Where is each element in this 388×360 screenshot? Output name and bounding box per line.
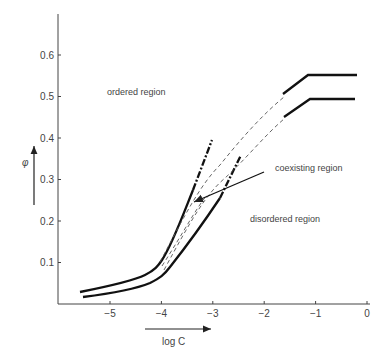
x-tick-label: 0 (364, 308, 370, 319)
phase-diagram-chart: 0.10.20.30.40.50.6 −5−4−3−2−10 φ log C o… (0, 0, 388, 360)
ordered-region-label: ordered region (107, 87, 166, 97)
y-tick-label: 0.6 (40, 50, 54, 61)
x-tick-label: −5 (104, 308, 116, 319)
coexisting-pointer-arrow-icon (194, 172, 264, 202)
y-axis-label: φ (22, 157, 29, 168)
curves (80, 75, 357, 297)
x-axis-label: log C (162, 336, 185, 347)
y-tick-label: 0.2 (40, 216, 54, 227)
y-tick-label: 0.5 (40, 91, 54, 102)
disordered-region-label: disordered region (250, 214, 320, 224)
x-tick-label: −1 (310, 308, 322, 319)
y-tick-label: 0.4 (40, 133, 54, 144)
x-tick-label: −4 (156, 308, 168, 319)
y-tick-label: 0.1 (40, 257, 54, 268)
coexisting-region-label: coexisting region (275, 163, 343, 173)
y-tick-label: 0.3 (40, 174, 54, 185)
x-tick-label: −2 (258, 308, 270, 319)
x-tick-label: −3 (207, 308, 219, 319)
